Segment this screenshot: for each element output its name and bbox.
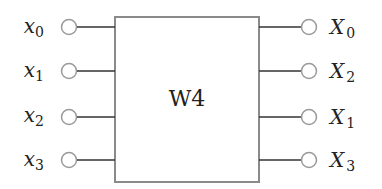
input-label-2: x2	[24, 103, 44, 129]
output-node-icon	[302, 64, 317, 79]
input-node-icon	[62, 20, 77, 35]
output-label-0: X0	[328, 15, 355, 41]
output-port-1: X2	[259, 59, 355, 85]
input-label-0: x0	[24, 14, 44, 40]
input-port-2: x2	[24, 103, 115, 129]
input-label-1: x1	[24, 58, 44, 84]
output-label-3: X3	[328, 148, 355, 174]
input-node-icon	[62, 64, 77, 79]
w4-block-diagram: W4 x0 x1 x2 x3 X0 X2 X1 X3	[0, 0, 382, 189]
input-label-3: x3	[24, 147, 44, 173]
input-port-1: x1	[24, 58, 115, 84]
input-node-icon	[62, 153, 77, 168]
output-node-icon	[302, 20, 317, 35]
output-node-icon	[302, 110, 317, 125]
input-port-3: x3	[24, 147, 115, 173]
block-label: W4	[169, 86, 206, 111]
output-label-2: X1	[328, 105, 355, 131]
output-port-2: X1	[259, 105, 355, 131]
output-node-icon	[302, 153, 317, 168]
output-port-3: X3	[259, 148, 355, 174]
output-port-0: X0	[259, 15, 355, 41]
output-label-1: X2	[328, 59, 355, 85]
input-node-icon	[62, 110, 77, 125]
input-port-0: x0	[24, 14, 115, 40]
